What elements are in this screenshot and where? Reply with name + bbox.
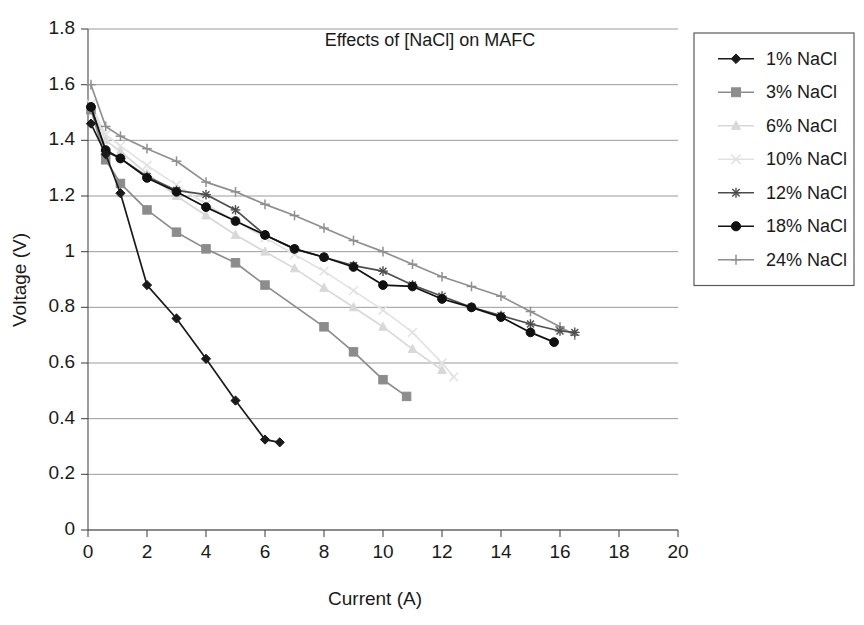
data-point-marker-circle — [202, 203, 211, 212]
y-axis-title: Voltage (V) — [9, 233, 30, 327]
data-point-marker-circle — [349, 263, 358, 272]
x-tick-label: 12 — [431, 541, 452, 562]
data-point-marker-square — [320, 323, 328, 331]
data-point-marker-circle — [290, 245, 299, 254]
data-point-marker-square — [402, 392, 410, 400]
y-tick-label: 1.2 — [49, 184, 75, 205]
data-point-marker-square — [231, 259, 239, 267]
y-tick-label: 0.8 — [49, 295, 75, 316]
y-tick-label: 1 — [64, 240, 75, 261]
data-point-marker-circle — [172, 187, 181, 196]
chart-title: Effects of [NaCl] on MAFC — [325, 30, 536, 50]
x-tick-label: 14 — [490, 541, 512, 562]
data-point-marker-circle — [143, 174, 152, 183]
chart-figure: 00.20.40.60.811.21.41.61.8 0246810121416… — [0, 0, 864, 625]
x-axis-title: Current (A) — [328, 588, 422, 609]
data-point-marker-circle — [231, 217, 240, 226]
data-point-marker-circle — [731, 222, 740, 231]
x-tick-label: 18 — [608, 541, 629, 562]
x-tick-label: 0 — [83, 541, 94, 562]
data-point-marker-square — [379, 375, 387, 383]
legend-item-label: 24% NaCl — [766, 250, 847, 270]
y-tick-label: 1.4 — [49, 128, 76, 149]
data-point-marker-circle — [497, 313, 506, 322]
data-point-marker-asterisk — [570, 328, 580, 338]
x-tick-label: 16 — [549, 541, 570, 562]
data-point-marker-circle — [438, 295, 447, 304]
y-tick-label: 0.6 — [49, 351, 75, 372]
data-point-marker-asterisk — [201, 190, 211, 200]
data-point-marker-square — [143, 206, 151, 214]
y-tick-label: 0.4 — [49, 407, 76, 428]
data-point-marker-circle — [408, 282, 417, 291]
y-tick-label: 0 — [64, 518, 75, 539]
x-tick-label: 20 — [667, 541, 688, 562]
data-point-marker-asterisk — [231, 205, 241, 215]
legend-item-label: 18% NaCl — [766, 216, 847, 236]
x-tick-label: 6 — [260, 541, 271, 562]
data-point-marker-circle — [87, 103, 96, 112]
data-point-marker-square — [732, 88, 741, 97]
legend-item-label: 1% NaCl — [766, 49, 837, 69]
data-point-marker-square — [202, 245, 210, 253]
data-point-marker-asterisk — [378, 266, 388, 276]
legend-item-label: 3% NaCl — [766, 82, 837, 102]
data-point-marker-circle — [116, 154, 125, 163]
legend-item-label: 6% NaCl — [766, 116, 837, 136]
data-point-marker-square — [172, 228, 180, 236]
data-point-marker-square — [349, 348, 357, 356]
y-tick-label: 1.8 — [49, 17, 75, 38]
chart-legend[interactable]: 1% NaCl3% NaCl6% NaCl10% NaCl12% NaCl18%… — [694, 33, 854, 286]
chart-canvas: 00.20.40.60.811.21.41.61.8 0246810121416… — [0, 0, 864, 625]
data-point-marker-circle — [261, 231, 270, 240]
x-tick-label: 8 — [319, 541, 330, 562]
data-point-marker-asterisk — [526, 319, 536, 329]
data-point-marker-circle — [379, 281, 388, 290]
y-tick-label: 1.6 — [49, 73, 75, 94]
data-point-marker-circle — [550, 338, 559, 347]
legend-item-label: 12% NaCl — [766, 183, 847, 203]
data-point-marker-circle — [320, 253, 329, 262]
y-tick-label: 0.2 — [49, 462, 75, 483]
data-point-marker-asterisk — [555, 326, 565, 336]
data-point-marker-circle — [467, 303, 476, 312]
data-point-marker-square — [261, 281, 269, 289]
x-tick-label: 2 — [142, 541, 153, 562]
legend-item-label: 10% NaCl — [766, 149, 847, 169]
data-point-marker-circle — [526, 328, 535, 337]
x-tick-label: 4 — [201, 541, 212, 562]
x-tick-label: 10 — [372, 541, 393, 562]
data-point-marker-asterisk — [731, 188, 741, 198]
